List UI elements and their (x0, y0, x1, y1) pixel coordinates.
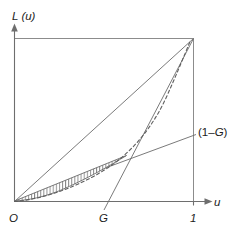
lorenz-curve-figure: L (u) u O G 1 (1–G) (0, 0, 231, 232)
one-minus-g-symbol: G (215, 126, 224, 138)
one-minus-g-label: (1–G) (198, 126, 228, 138)
origin-label: O (9, 212, 18, 224)
one-minus-g-suffix: ) (224, 126, 228, 138)
equality-line (15, 39, 194, 202)
x-tick-label-one: 1 (190, 212, 196, 224)
lorenz-curve-chart: L (u) u O G 1 (1–G) (0, 0, 231, 232)
one-minus-g-prefix: (1 (198, 126, 208, 138)
y-axis-arrow-icon (11, 24, 18, 32)
hatched-region-outline (15, 156, 127, 202)
x-axis-arrow-icon (205, 198, 213, 205)
y-axis-label: L (u) (12, 10, 36, 22)
x-axis-label: u (214, 196, 221, 208)
x-tick-label-g: G (99, 212, 108, 224)
